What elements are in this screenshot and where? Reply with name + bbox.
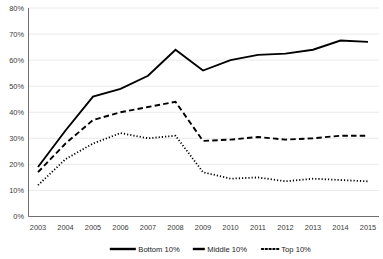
- y-axis-tick-label: 10%: [9, 186, 24, 195]
- x-axis-tick-label: 2008: [167, 223, 183, 232]
- x-axis-tick-label: 2012: [277, 223, 293, 232]
- x-axis-tick-label: 2011: [250, 223, 266, 232]
- y-axis-tick-label: 20%: [9, 160, 24, 169]
- x-axis-tick-labels: 2003200420052006200720082009201020112012…: [30, 223, 376, 232]
- y-axis-tick-label: 50%: [9, 82, 24, 91]
- x-axis-tick-label: 2010: [222, 223, 238, 232]
- legend-label-middle-10: Middle 10%: [207, 245, 247, 254]
- x-axis-tick-label: 2009: [195, 223, 211, 232]
- x-axis-tick-label: 2015: [360, 223, 376, 232]
- x-axis-tick-label: 2004: [57, 223, 73, 232]
- line-chart: 0%10%20%30%40%50%60%70%80% 2003200420052…: [0, 0, 383, 259]
- y-axis-tick-label: 0%: [13, 212, 24, 221]
- x-axis-tick-label: 2013: [305, 223, 321, 232]
- series-line-top-10: [38, 133, 368, 185]
- gridlines: [29, 8, 380, 190]
- y-axis-tick-labels: 0%10%20%30%40%50%60%70%80%: [9, 4, 24, 222]
- x-axis-tick-label: 2007: [140, 223, 156, 232]
- y-axis-tick-label: 30%: [9, 134, 24, 143]
- y-axis-tick-label: 80%: [9, 4, 24, 13]
- data-series-group: [38, 41, 368, 186]
- legend-label-bottom-10: Bottom 10%: [138, 245, 180, 254]
- x-axis-tick-label: 2003: [30, 223, 46, 232]
- y-axis-tick-label: 70%: [9, 30, 24, 39]
- chart-svg: 0%10%20%30%40%50%60%70%80% 2003200420052…: [0, 0, 383, 259]
- chart-plot-area: 0%10%20%30%40%50%60%70%80% 2003200420052…: [0, 0, 383, 259]
- y-axis-tick-label: 40%: [9, 108, 24, 117]
- x-axis-tick-label: 2005: [85, 223, 101, 232]
- x-axis-tick-label: 2014: [332, 223, 348, 232]
- x-axis-tick-label: 2006: [112, 223, 128, 232]
- chart-legend: Bottom 10%Middle 10%Top 10%: [110, 245, 311, 254]
- legend-label-top-10: Top 10%: [281, 245, 311, 254]
- series-line-bottom-10: [38, 41, 368, 167]
- y-axis-tick-label: 60%: [9, 56, 24, 65]
